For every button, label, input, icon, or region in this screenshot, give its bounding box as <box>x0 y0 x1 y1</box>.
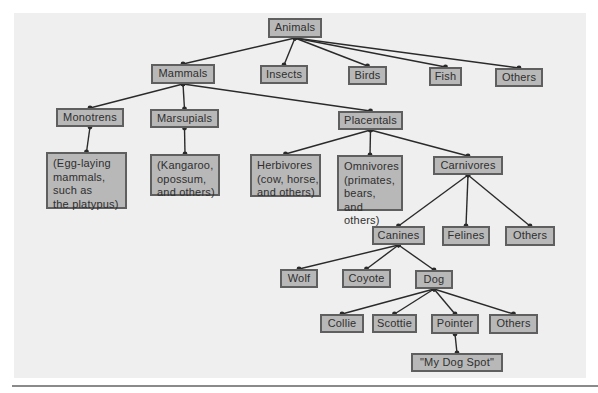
node-marsupials: Marsupials <box>150 109 219 128</box>
node-felines: Felines <box>442 226 490 246</box>
edge-animals-fish <box>295 38 446 67</box>
node-fish: Fish <box>429 67 462 86</box>
edge-pointer-my-dog-spot <box>455 334 457 353</box>
node-herbivores: Herbivores (cow, horse, and others) <box>250 154 321 197</box>
edge-carnivores-carnivores-others <box>468 175 530 226</box>
node-dog-others: Others <box>489 314 538 334</box>
node-coyote: Coyote <box>342 269 391 288</box>
edge-dog-dog-others <box>434 289 514 314</box>
node-placentals: Placentals <box>338 111 403 130</box>
edge-placentals-carnivores <box>371 130 469 156</box>
edge-placentals-omnivores <box>370 130 371 155</box>
node-scottie: Scottie <box>372 314 417 333</box>
node-omnivores: Omnivores (primates, bears, and others) <box>337 155 403 211</box>
node-canines: Canines <box>372 226 425 245</box>
edge-animals-insects <box>284 38 295 65</box>
edge-carnivores-canines <box>399 175 469 226</box>
edge-mammals-monotrens <box>90 84 183 108</box>
node-collie: Collie <box>320 314 364 333</box>
node-birds: Birds <box>348 66 387 85</box>
edge-animals-mammals <box>183 38 295 64</box>
edge-canines-dog <box>399 245 435 270</box>
node-monotrens: Monotrens <box>56 108 124 127</box>
node-carnivores: Carnivores <box>433 156 503 175</box>
edge-placentals-herbivores <box>286 130 371 154</box>
node-kangaroo: (Kangaroo, opossum, and others) <box>150 154 220 196</box>
edge-dog-scottie <box>395 289 435 314</box>
node-insects: Insects <box>260 65 308 84</box>
node-mammals: Mammals <box>151 64 215 84</box>
edge-mammals-marsupials <box>183 84 185 109</box>
edge-dog-collie <box>342 289 434 314</box>
edge-animals-animals-others <box>295 38 519 68</box>
edge-carnivores-felines <box>466 175 468 226</box>
node-wolf: Wolf <box>280 269 318 288</box>
edge-marsupials-kangaroo <box>185 128 186 154</box>
node-animals-others: Others <box>495 68 543 87</box>
node-animals: Animals <box>268 18 322 38</box>
node-dog: Dog <box>415 270 453 289</box>
edge-mammals-placentals <box>183 84 371 111</box>
node-my-dog-spot: "My Dog Spot" <box>411 353 503 372</box>
edge-monotrens-egg-laying <box>87 127 91 152</box>
node-pointer: Pointer <box>431 314 479 334</box>
node-carnivores-others: Others <box>505 226 555 246</box>
node-egg-laying: (Egg-laying mammals, such as the platypu… <box>46 152 127 209</box>
